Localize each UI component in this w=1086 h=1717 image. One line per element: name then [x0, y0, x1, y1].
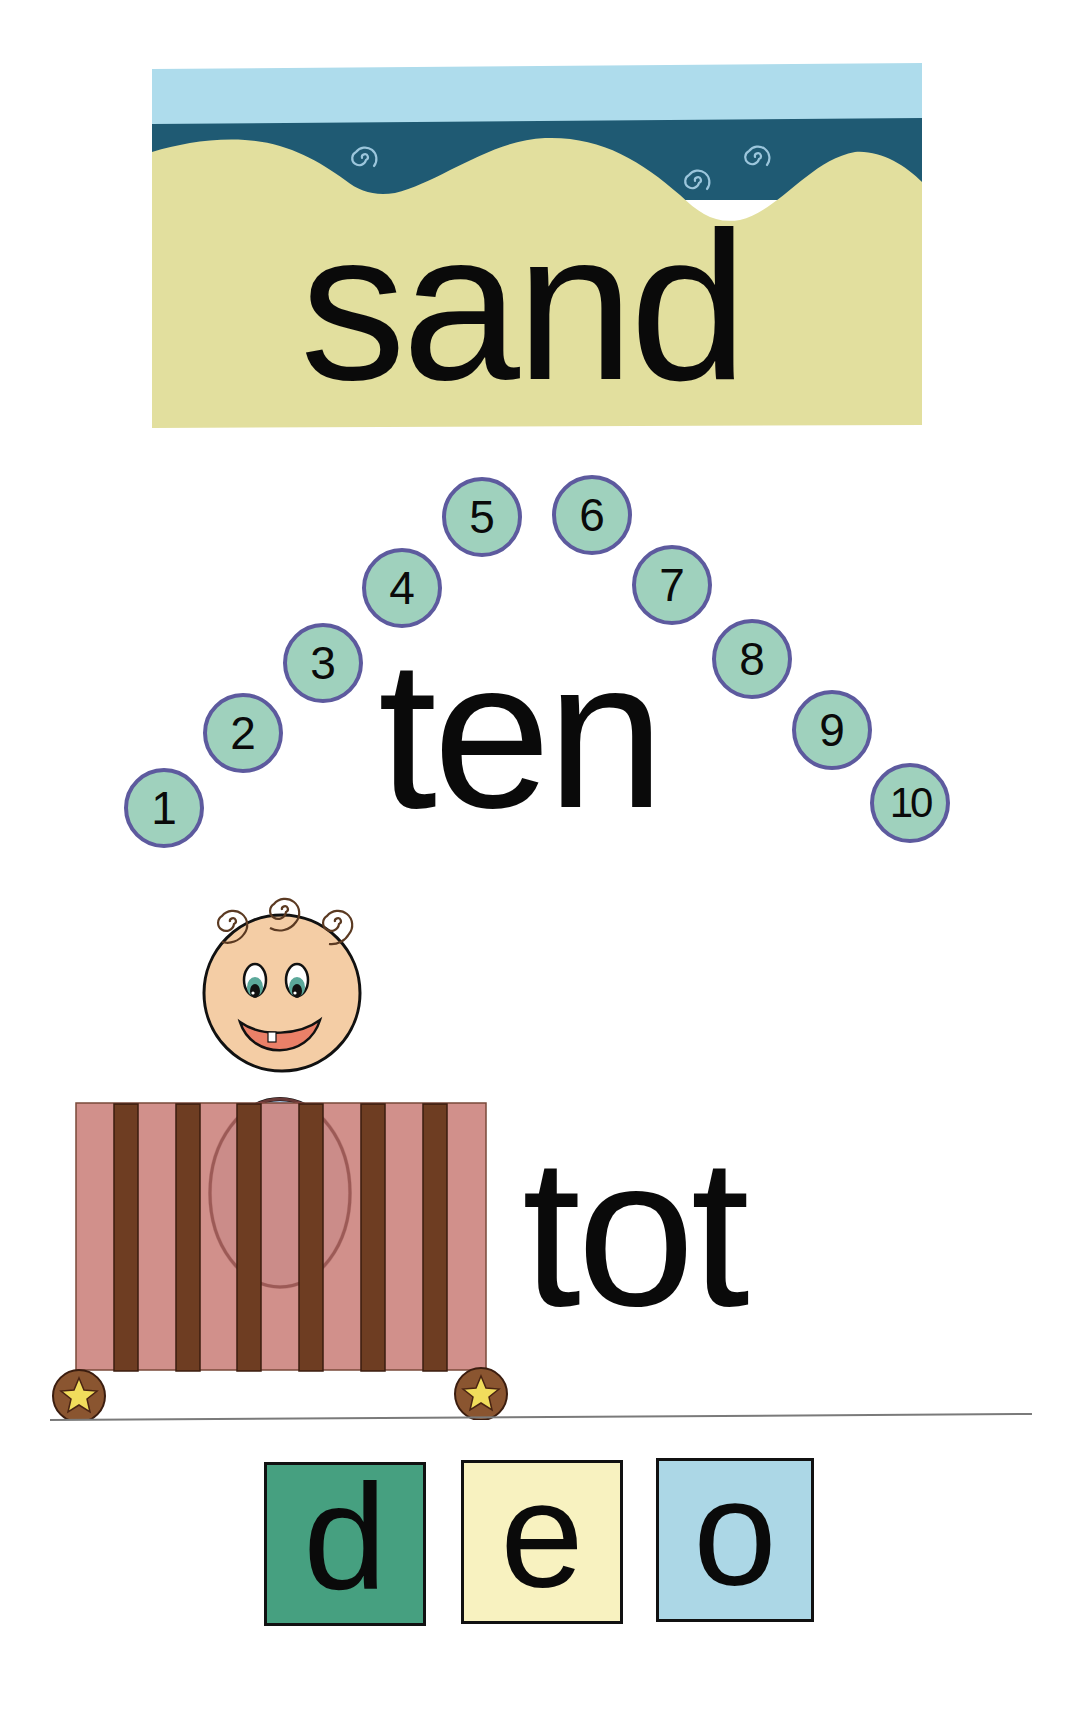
number-circle-7: 7: [632, 545, 712, 625]
wheel-icon: [53, 1370, 105, 1420]
wheel-icon: [455, 1368, 507, 1420]
number-circle-5: 5: [442, 477, 522, 557]
sand-card: sand: [0, 0, 1086, 440]
toddler-face-icon: [204, 899, 360, 1071]
letter-tile-o[interactable]: o: [656, 1458, 814, 1622]
number-circle-1: 1: [124, 768, 204, 848]
number-circle-10: 10: [870, 763, 950, 843]
crib-icon: [53, 1099, 507, 1420]
tot-card: tot: [0, 860, 1086, 1420]
letter-tile-d[interactable]: d: [264, 1462, 426, 1626]
word-sand: sand: [300, 200, 744, 412]
number-circle-3: 3: [283, 623, 363, 703]
number-circle-9: 9: [792, 690, 872, 770]
number-circle-2: 2: [203, 693, 283, 773]
ten-card: 1 2 3 4 5 6 7 8 9 10 ten: [0, 440, 1086, 860]
number-circle-8: 8: [712, 619, 792, 699]
word-ten: ten: [378, 628, 661, 840]
letter-tile-e[interactable]: e: [461, 1460, 623, 1624]
word-tot: tot: [522, 1126, 746, 1338]
number-circle-6: 6: [552, 475, 632, 555]
letter-tiles: d e o: [0, 1440, 1086, 1660]
